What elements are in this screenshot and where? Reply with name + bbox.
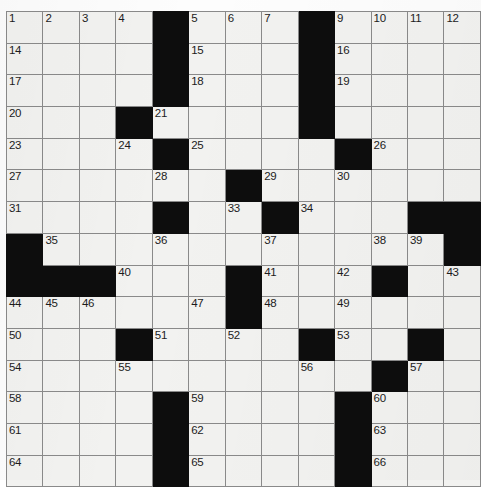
crossword-cell[interactable]: [371, 202, 407, 234]
crossword-cell[interactable]: [407, 170, 443, 202]
crossword-grid[interactable]: 1234567910111214151617181920212324252627…: [6, 11, 481, 487]
crossword-cell[interactable]: [152, 297, 188, 329]
crossword-cell[interactable]: [189, 265, 225, 297]
crossword-cell[interactable]: [79, 43, 115, 75]
crossword-cell[interactable]: [79, 202, 115, 234]
crossword-cell[interactable]: 19: [335, 75, 371, 107]
crossword-cell[interactable]: 44: [7, 297, 43, 329]
crossword-cell[interactable]: [116, 170, 152, 202]
crossword-cell[interactable]: [225, 392, 261, 424]
crossword-cell[interactable]: 4: [116, 12, 152, 44]
crossword-cell[interactable]: [407, 297, 443, 329]
crossword-cell[interactable]: [225, 43, 261, 75]
crossword-cell[interactable]: [79, 170, 115, 202]
crossword-cell[interactable]: [43, 43, 79, 75]
crossword-cell[interactable]: 16: [335, 43, 371, 75]
crossword-cell[interactable]: [262, 43, 298, 75]
crossword-cell[interactable]: 14: [7, 43, 43, 75]
crossword-cell[interactable]: [189, 360, 225, 392]
crossword-cell[interactable]: [444, 138, 481, 170]
crossword-cell[interactable]: [444, 328, 481, 360]
crossword-cell[interactable]: [298, 138, 334, 170]
crossword-cell[interactable]: [444, 423, 481, 455]
crossword-cell[interactable]: 37: [262, 233, 298, 265]
crossword-cell[interactable]: [371, 297, 407, 329]
crossword-cell[interactable]: 3: [79, 12, 115, 44]
crossword-cell[interactable]: [262, 455, 298, 487]
crossword-cell[interactable]: [189, 107, 225, 139]
crossword-cell[interactable]: 25: [189, 138, 225, 170]
crossword-cell[interactable]: 51: [152, 328, 188, 360]
crossword-cell[interactable]: 57: [407, 360, 443, 392]
crossword-cell[interactable]: 30: [335, 170, 371, 202]
crossword-cell[interactable]: 56: [298, 360, 334, 392]
crossword-cell[interactable]: 6: [225, 12, 261, 44]
crossword-cell[interactable]: [116, 75, 152, 107]
crossword-cell[interactable]: [298, 423, 334, 455]
crossword-cell[interactable]: [335, 360, 371, 392]
crossword-cell[interactable]: 58: [7, 392, 43, 424]
crossword-cell[interactable]: 1: [7, 12, 43, 44]
crossword-cell[interactable]: [225, 233, 261, 265]
crossword-cell[interactable]: 34: [298, 202, 334, 234]
crossword-cell[interactable]: 5: [189, 12, 225, 44]
crossword-cell[interactable]: 7: [262, 12, 298, 44]
crossword-cell[interactable]: [444, 455, 481, 487]
crossword-cell[interactable]: [189, 170, 225, 202]
crossword-cell[interactable]: [444, 107, 481, 139]
crossword-cell[interactable]: [371, 75, 407, 107]
crossword-cell[interactable]: [189, 202, 225, 234]
crossword-cell[interactable]: [116, 43, 152, 75]
crossword-cell[interactable]: [407, 392, 443, 424]
crossword-cell[interactable]: 20: [7, 107, 43, 139]
crossword-cell[interactable]: [298, 392, 334, 424]
crossword-cell[interactable]: 23: [7, 138, 43, 170]
crossword-cell[interactable]: [262, 360, 298, 392]
crossword-cell[interactable]: [79, 360, 115, 392]
crossword-cell[interactable]: [371, 107, 407, 139]
crossword-cell[interactable]: [189, 233, 225, 265]
crossword-cell[interactable]: 35: [43, 233, 79, 265]
crossword-cell[interactable]: 53: [335, 328, 371, 360]
crossword-cell[interactable]: [189, 328, 225, 360]
crossword-cell[interactable]: 26: [371, 138, 407, 170]
crossword-cell[interactable]: [116, 297, 152, 329]
crossword-cell[interactable]: [225, 138, 261, 170]
crossword-cell[interactable]: [43, 423, 79, 455]
crossword-cell[interactable]: [335, 233, 371, 265]
crossword-cell[interactable]: 27: [7, 170, 43, 202]
crossword-cell[interactable]: [79, 423, 115, 455]
crossword-cell[interactable]: [43, 170, 79, 202]
crossword-cell[interactable]: 49: [335, 297, 371, 329]
crossword-cell[interactable]: 24: [116, 138, 152, 170]
crossword-cell[interactable]: [407, 75, 443, 107]
crossword-cell[interactable]: 45: [43, 297, 79, 329]
crossword-cell[interactable]: [444, 360, 481, 392]
crossword-cell[interactable]: [116, 455, 152, 487]
crossword-cell[interactable]: [407, 423, 443, 455]
crossword-cell[interactable]: [116, 392, 152, 424]
crossword-cell[interactable]: [407, 455, 443, 487]
crossword-cell[interactable]: [444, 297, 481, 329]
crossword-cell[interactable]: [43, 202, 79, 234]
crossword-cell[interactable]: [444, 43, 481, 75]
crossword-cell[interactable]: 43: [444, 265, 481, 297]
crossword-cell[interactable]: 62: [189, 423, 225, 455]
crossword-cell[interactable]: [116, 202, 152, 234]
crossword-cell[interactable]: [262, 107, 298, 139]
crossword-cell[interactable]: 2: [43, 12, 79, 44]
crossword-cell[interactable]: 31: [7, 202, 43, 234]
crossword-cell[interactable]: 63: [371, 423, 407, 455]
crossword-cell[interactable]: [225, 423, 261, 455]
crossword-cell[interactable]: 33: [225, 202, 261, 234]
crossword-cell[interactable]: [407, 43, 443, 75]
crossword-cell[interactable]: [79, 455, 115, 487]
crossword-cell[interactable]: 48: [262, 297, 298, 329]
crossword-cell[interactable]: 42: [335, 265, 371, 297]
crossword-cell[interactable]: [262, 328, 298, 360]
crossword-cell[interactable]: 11: [407, 12, 443, 44]
crossword-cell[interactable]: 38: [371, 233, 407, 265]
crossword-cell[interactable]: 40: [116, 265, 152, 297]
crossword-cell[interactable]: [79, 75, 115, 107]
crossword-cell[interactable]: [371, 328, 407, 360]
